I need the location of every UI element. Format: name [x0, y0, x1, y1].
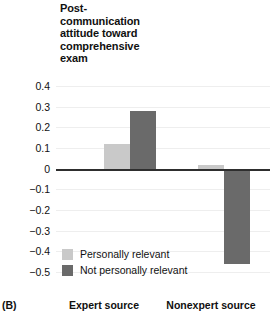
figure-panel-b: Post- communication attitude toward comp… — [0, 0, 278, 321]
bar — [104, 144, 130, 169]
y-axis-tick-label: 0.3 — [0, 101, 50, 113]
legend-item: Personally relevant — [62, 246, 242, 262]
gridline — [56, 127, 270, 128]
legend-item: Not personally relevant — [62, 262, 242, 278]
y-axis-tick-label: 0.1 — [0, 142, 50, 154]
chart-legend: Personally relevant Not personally relev… — [62, 246, 242, 278]
plot-area — [56, 86, 270, 272]
y-axis-tick-label: −0.3 — [0, 225, 50, 237]
panel-label: (B) — [2, 299, 17, 311]
legend-swatch-not-personally-relevant — [62, 265, 73, 276]
y-axis-tick-label: −0.2 — [0, 204, 50, 216]
y-axis-tick-label: 0.4 — [0, 80, 50, 92]
y-axis-title-line: Post- — [60, 2, 180, 15]
gridline — [56, 107, 270, 108]
x-axis-label-nonexpert-source: Nonexpert source — [146, 299, 276, 311]
y-axis-tick-label: 0 — [0, 163, 50, 175]
bar — [130, 111, 156, 169]
legend-label: Not personally relevant — [80, 264, 187, 276]
gridline — [56, 148, 270, 149]
legend-label: Personally relevant — [80, 248, 169, 260]
y-axis-tick-label: −0.4 — [0, 245, 50, 257]
y-axis-title: Post- communication attitude toward comp… — [60, 2, 180, 65]
y-axis-tick-label: 0.2 — [0, 121, 50, 133]
y-axis-tick-label: −0.1 — [0, 183, 50, 195]
y-axis-title-line: comprehensive — [60, 40, 180, 53]
y-axis-title-line: attitude toward — [60, 27, 180, 40]
gridline — [56, 86, 270, 87]
legend-swatch-personally-relevant — [62, 249, 73, 260]
y-axis-title-line: communication — [60, 15, 180, 28]
y-axis-tick-label: −0.5 — [0, 266, 50, 278]
zero-axis-line — [56, 169, 270, 171]
y-axis-title-line: exam — [60, 52, 180, 65]
